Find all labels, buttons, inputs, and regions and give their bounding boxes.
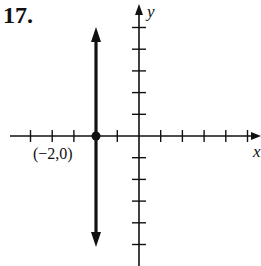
- x-axis-label: x: [253, 142, 261, 162]
- line-arrow-down-icon: [91, 232, 101, 247]
- problem-number: 17.: [3, 2, 33, 29]
- y-axis-arrow-icon: [135, 4, 143, 15]
- point-neg2-0: [92, 132, 101, 141]
- point-label: (−2,0): [33, 145, 73, 163]
- line-arrow-up-icon: [91, 27, 101, 42]
- coordinate-plane: [0, 0, 261, 266]
- x-axis-arrow-icon: [251, 132, 261, 140]
- y-axis-label: y: [147, 2, 155, 22]
